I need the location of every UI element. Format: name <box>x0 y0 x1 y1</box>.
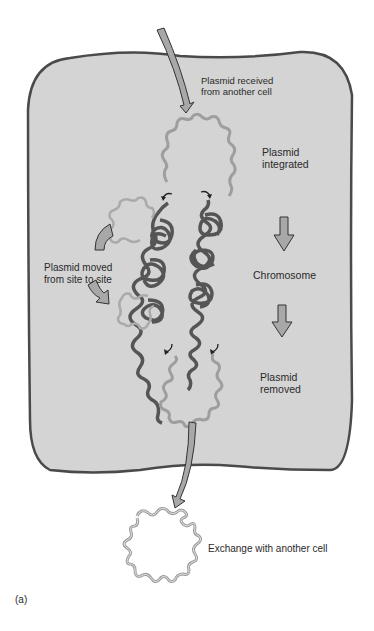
label-received-line2: from another cell <box>201 86 273 97</box>
label-chromosome: Chromosome <box>253 270 316 281</box>
label-moved: Plasmid moved from site to site <box>44 262 112 286</box>
label-exchange: Exchange with another cell <box>208 543 328 554</box>
label-removed-line1: Plasmid <box>260 371 301 383</box>
panel-label: (a) <box>15 594 27 605</box>
plasmid-exchange-highlight <box>124 508 201 581</box>
label-moved-line2: from site to site <box>44 274 112 286</box>
label-integrated: Plasmid integrated <box>262 146 309 170</box>
label-moved-line1: Plasmid moved <box>44 262 112 274</box>
label-integrated-line2: integrated <box>262 158 309 170</box>
label-integrated-line1: Plasmid <box>262 146 309 158</box>
label-received: Plasmid received from another cell <box>201 75 273 97</box>
label-received-line1: Plasmid received <box>201 75 273 86</box>
label-removed: Plasmid removed <box>260 371 301 395</box>
plasmid-diagram <box>0 0 374 631</box>
label-removed-line2: removed <box>260 383 301 395</box>
